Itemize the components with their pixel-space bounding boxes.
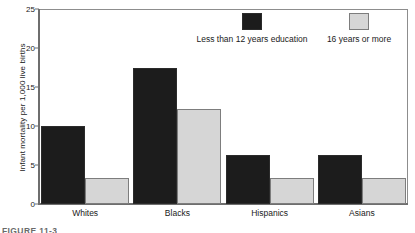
bar-blacks-series-2 — [177, 109, 221, 204]
figure-caption: FIGURE 11-3 — [2, 226, 57, 233]
bar-group-whites — [39, 9, 131, 204]
bar-hispanics-series-2 — [270, 178, 314, 204]
legend-label-1: Less than 12 years education — [196, 34, 307, 44]
x-axis-label-blacks: Blacks — [165, 208, 190, 218]
chart-legend: Less than 12 years education16 years or … — [196, 13, 402, 51]
x-axis-label-asians: Asians — [349, 208, 375, 218]
bar-blacks-series-1 — [133, 68, 177, 205]
legend-swatch-2 — [349, 13, 369, 30]
legend-swatch-1 — [242, 13, 262, 30]
bar-whites-series-2 — [85, 178, 129, 204]
y-axis-title: Infant mortality per 1,000 live births — [18, 8, 27, 208]
figure-container: Infant mortality per 1,000 live births 0… — [0, 0, 415, 233]
legend-label-2: 16 years or more — [327, 34, 391, 44]
x-axis-label-hispanics: Hispanics — [251, 208, 288, 218]
bar-hispanics-series-1 — [226, 155, 270, 204]
bar-asians-series-2 — [362, 178, 406, 204]
x-axis-label-whites: Whites — [72, 208, 98, 218]
bar-whites-series-1 — [41, 126, 85, 204]
bar-asians-series-1 — [318, 155, 362, 204]
